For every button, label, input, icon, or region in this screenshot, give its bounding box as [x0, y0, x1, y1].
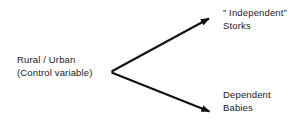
causal-diagram-canvas: Rural / Urban (Control variable) ” Indep…: [0, 0, 303, 125]
node-independent-storks: ” Independent” Storks: [223, 6, 287, 32]
independent-line-1: ” Independent”: [223, 6, 287, 19]
node-dependent-babies: Dependent Babies: [223, 88, 271, 114]
control-variable-line-2: (Control variable): [17, 66, 93, 79]
node-control-variable: Rural / Urban (Control variable): [17, 53, 93, 79]
arrow-to-dependent-icon: [112, 73, 210, 112]
arrow-to-independent-icon: [112, 19, 210, 72]
dependent-line-2: Babies: [223, 101, 271, 114]
independent-line-2: Storks: [223, 19, 287, 32]
dependent-line-1: Dependent: [223, 88, 271, 101]
control-variable-line-1: Rural / Urban: [17, 53, 93, 66]
